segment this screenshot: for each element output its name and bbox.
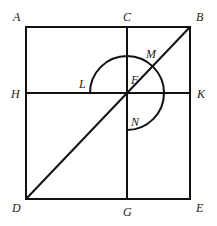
label-L: L xyxy=(78,77,86,91)
label-D: D xyxy=(11,201,21,215)
label-K: K xyxy=(196,87,206,101)
label-E: E xyxy=(195,201,204,215)
label-A: A xyxy=(12,10,21,24)
label-B: B xyxy=(196,10,204,24)
label-C: C xyxy=(123,10,132,24)
diagonal-DB xyxy=(26,27,190,199)
label-N: N xyxy=(130,115,140,129)
label-F: F xyxy=(130,73,139,87)
label-G: G xyxy=(123,205,132,219)
geometry-diagram: A C B H K L M F N D G E xyxy=(0,0,217,226)
label-H: H xyxy=(10,87,21,101)
label-M: M xyxy=(145,47,157,61)
